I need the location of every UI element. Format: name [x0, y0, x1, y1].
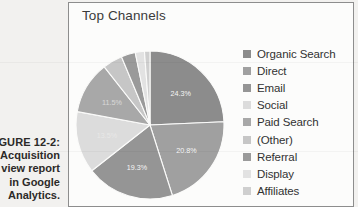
pie-slice-label: 24.3%: [171, 89, 192, 98]
legend-color-swatch: [243, 50, 251, 58]
legend-item[interactable]: Direct: [243, 62, 351, 79]
figure-number: IGURE 12-2:: [0, 136, 60, 149]
legend-item-label: Referral: [257, 151, 297, 163]
legend-color-swatch: [243, 170, 251, 178]
legend-item-label: Paid Search: [257, 116, 319, 128]
chart-legend: Organic SearchDirectEmailSocialPaid Sear…: [243, 45, 351, 200]
pie-slice-label: 11.5%: [102, 98, 122, 107]
legend-item-label: Display: [257, 168, 294, 180]
legend-color-swatch: [243, 84, 251, 92]
figure-caption-line-4: Analytics.: [0, 189, 60, 202]
legend-color-swatch: [243, 118, 251, 126]
pie-chart-svg: 24.3%20.8%19.3%13.5%11.5%: [74, 49, 226, 201]
legend-color-swatch: [243, 67, 251, 75]
panel-title: Top Channels: [82, 8, 166, 23]
legend-item-label: Email: [257, 82, 285, 94]
pie-chart: 24.3%20.8%19.3%13.5%11.5%: [74, 49, 226, 201]
report-panel-body: Top Channels 24.3%20.8%19.3%13.5%11.5% O…: [69, 3, 353, 206]
pie-slice-label: 20.8%: [176, 146, 197, 155]
pie-slice-label: 13.5%: [97, 131, 118, 140]
pie-slice-group: [76, 51, 224, 199]
legend-color-swatch: [243, 153, 251, 161]
figure-caption-line-2: view report: [0, 162, 60, 175]
legend-item[interactable]: (Other): [243, 131, 351, 148]
legend-item[interactable]: Display: [243, 165, 351, 182]
legend-item[interactable]: Referral: [243, 148, 351, 165]
legend-item-label: Direct: [257, 65, 286, 77]
figure-caption-line-1: Acquisition: [0, 149, 60, 162]
legend-color-swatch: [243, 187, 251, 195]
figure-caption: IGURE 12-2: Acquisition view report in G…: [0, 136, 60, 202]
legend-item-label: Organic Search: [257, 48, 336, 60]
legend-item[interactable]: Organic Search: [243, 45, 351, 62]
legend-item[interactable]: Social: [243, 97, 351, 114]
legend-item-label: Affiliates: [257, 185, 299, 197]
figure-caption-line-3: in Google: [0, 176, 60, 189]
legend-color-swatch: [243, 101, 251, 109]
legend-item-label: (Other): [257, 134, 293, 146]
report-panel: Top Channels 24.3%20.8%19.3%13.5%11.5% O…: [68, 2, 354, 207]
pie-slice-label: 19.3%: [127, 163, 148, 172]
legend-item[interactable]: Email: [243, 79, 351, 96]
figure-container: IGURE 12-2: Acquisition view report in G…: [0, 0, 358, 207]
legend-item[interactable]: Affiliates: [243, 183, 351, 200]
legend-item[interactable]: Paid Search: [243, 114, 351, 131]
legend-item-label: Social: [257, 99, 288, 111]
legend-color-swatch: [243, 136, 251, 144]
